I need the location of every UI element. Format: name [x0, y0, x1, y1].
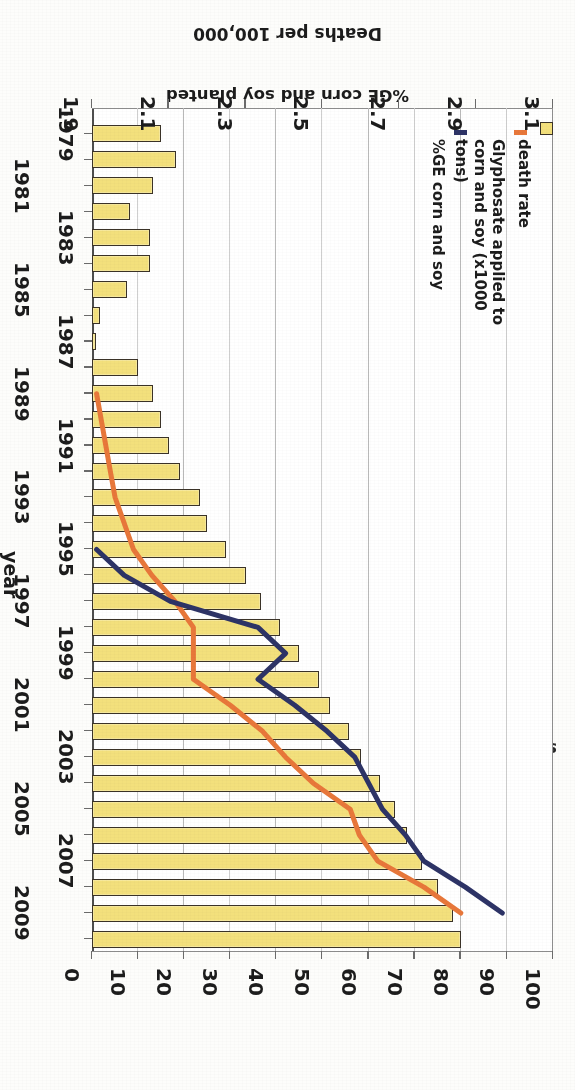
year-tick-label-1989: 1989 — [10, 366, 34, 422]
year-tick-label-1993: 1993 — [10, 470, 34, 526]
year-tick-2009 — [84, 912, 92, 913]
line-swatch-icon — [454, 130, 467, 135]
death-tick-1.9 — [91, 99, 92, 108]
value-tick-50 — [321, 951, 322, 959]
line-swatch-icon — [514, 130, 527, 135]
year-axis-title: year — [0, 551, 22, 598]
year-tick-label-2001: 2001 — [10, 677, 34, 733]
year-tick-1985 — [84, 289, 92, 290]
year-tick-1995 — [84, 548, 92, 549]
year-tick-1984 — [84, 263, 92, 264]
year-tick-1991 — [84, 444, 92, 445]
year-tick-1998 — [84, 626, 92, 627]
death-tick-2.1 — [167, 99, 168, 108]
death-tick-2.9 — [475, 99, 476, 108]
year-tick-1999 — [84, 652, 92, 653]
year-tick-1990 — [84, 418, 92, 419]
year-tick-label-2005: 2005 — [10, 781, 34, 837]
bar-swatch-icon — [540, 122, 553, 135]
value-tick-label-70: 70 — [383, 968, 407, 996]
value-tick-70 — [413, 951, 414, 959]
year-tick-1992 — [84, 470, 92, 471]
value-tick-label-50: 50 — [291, 968, 315, 996]
legend: death rateGlyphosate applied to corn and… — [433, 115, 553, 435]
year-tick-label-1981: 1981 — [10, 158, 34, 214]
value-tick-0 — [91, 951, 92, 959]
value-tick-100 — [552, 951, 553, 959]
year-tick-label-1983: 1983 — [54, 210, 78, 266]
line-ge-corn-and-soy — [97, 550, 503, 914]
value-tick-label-0: 0 — [60, 968, 84, 982]
value-tick-label-30: 30 — [198, 968, 222, 996]
year-tick-label-1985: 1985 — [10, 262, 34, 318]
year-tick-1983 — [84, 237, 92, 238]
year-tick-2004 — [84, 782, 92, 783]
death-tick-label-2.1: 2.1 — [136, 96, 160, 131]
year-tick-2000 — [84, 678, 92, 679]
death-tick-2.3 — [244, 99, 245, 108]
death-tick-label-2.3: 2.3 — [213, 96, 237, 131]
death-axis-title: Deaths per 100,000 — [0, 24, 575, 44]
death-tick-label-1.9: 1.9 — [59, 96, 83, 131]
year-tick-2001 — [84, 704, 92, 705]
value-tick-label-90: 90 — [475, 968, 499, 996]
legend-item-label-0: death rate — [515, 139, 533, 228]
year-tick-label-2009: 2009 — [10, 885, 34, 941]
year-tick-1982 — [84, 211, 92, 212]
value-tick-40 — [275, 951, 276, 959]
value-tick-80 — [459, 951, 460, 959]
year-tick-2003 — [84, 756, 92, 757]
year-tick-2005 — [84, 808, 92, 809]
year-tick-label-1995: 1995 — [54, 522, 78, 578]
legend-item-label-1: Glyphosate applied to corn and soy (x100… — [452, 139, 507, 325]
value-tick-label-60: 60 — [337, 968, 361, 996]
year-tick-label-1991: 1991 — [54, 418, 78, 474]
year-tick-1997 — [84, 600, 92, 601]
year-tick-1980 — [84, 159, 92, 160]
year-tick-2008 — [84, 886, 92, 887]
year-tick-1987 — [84, 340, 92, 341]
year-tick-label-1987: 1987 — [54, 314, 78, 370]
value-tick-10 — [137, 951, 138, 959]
year-tick-1988 — [84, 366, 92, 367]
year-tick-1986 — [84, 315, 92, 316]
value-tick-20 — [183, 951, 184, 959]
value-tick-30 — [229, 951, 230, 959]
year-tick-label-1999: 1999 — [54, 625, 78, 681]
value-tick-label-100: 100 — [521, 968, 545, 1010]
chart-scan-canvas: sources: USDA:NASS; CDC glyphosate appli… — [0, 0, 575, 1090]
death-tick-label-2.7: 2.7 — [366, 96, 390, 131]
death-tick-3.1 — [552, 99, 553, 108]
year-tick-1996 — [84, 574, 92, 575]
value-axis-title-line2: %GE corn and soy planted — [0, 84, 575, 106]
value-tick-label-40: 40 — [244, 968, 268, 996]
death-tick-label-2.5: 2.5 — [290, 96, 314, 131]
year-tick-2006 — [84, 834, 92, 835]
year-tick-2007 — [84, 860, 92, 861]
year-tick-1979 — [84, 133, 92, 134]
legend-item-label-2: %GE corn and soy — [429, 139, 447, 290]
year-tick-1981 — [84, 185, 92, 186]
year-tick-1993 — [84, 496, 92, 497]
value-tick-label-10: 10 — [106, 968, 130, 996]
death-tick-2.7 — [398, 99, 399, 108]
year-tick-2010 — [84, 938, 92, 939]
year-tick-2002 — [84, 730, 92, 731]
value-tick-60 — [367, 951, 368, 959]
value-tick-label-20: 20 — [152, 968, 176, 996]
year-tick-1994 — [84, 522, 92, 523]
death-tick-2.5 — [321, 99, 322, 108]
value-tick-90 — [506, 951, 507, 959]
year-tick-label-2007: 2007 — [54, 833, 78, 889]
year-tick-label-2003: 2003 — [54, 729, 78, 785]
death-rate-axis: 1.92.12.32.52.72.93.1 — [92, 104, 553, 108]
value-tick-label-80: 80 — [429, 968, 453, 996]
year-tick-1989 — [84, 392, 92, 393]
